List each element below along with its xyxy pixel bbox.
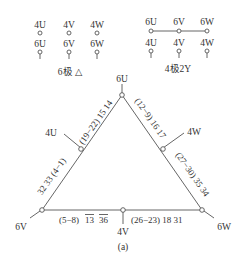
legend-delta-4v: 4V — [63, 20, 75, 30]
vertex-label-6v: 6V — [15, 222, 27, 232]
delta-legend: 4U 4V 4W 6U 6V 6W 6极 △ — [34, 20, 104, 77]
legend-wye-4w: 4W — [200, 38, 214, 48]
node-6w — [200, 208, 205, 213]
node-4u — [79, 147, 84, 152]
terminal-icon — [205, 49, 209, 53]
legend-wye-6u: 6U — [145, 17, 157, 27]
node-6v — [40, 208, 45, 213]
terminal-icon — [38, 50, 42, 54]
figure-caption: (a) — [118, 242, 129, 253]
legend-wye-4v: 4V — [173, 38, 185, 48]
legend-delta-4w: 4W — [90, 20, 104, 30]
vertex-lead-right — [204, 211, 214, 218]
edge-label-left-upper: (19−22) 15 14 — [77, 98, 115, 146]
terminal-icon — [149, 49, 153, 53]
triangle-left-side — [42, 95, 122, 210]
wye-legend: 6U 6V 6W 4U 4V 4W 4极2Y — [145, 17, 214, 74]
midpoint-label-4u: 4U — [45, 128, 57, 138]
midpoint-label-4v: 4V — [117, 227, 129, 237]
terminal-icon — [177, 49, 181, 53]
node-4v — [121, 208, 126, 213]
legend-delta-6w: 6W — [90, 39, 104, 49]
midpoint-label-4w: 4W — [187, 127, 201, 137]
vertex-label-6w: 6W — [217, 222, 231, 232]
legend-wye-6w: 6W — [200, 17, 214, 27]
terminal-icon — [67, 50, 71, 54]
vertex-label-6u: 6U — [116, 74, 128, 84]
winding-connection-diagram: 4U 4V 4W 6U 6V 6W 6极 △ 6U 6V 6W 4U 4V 4W — [0, 0, 244, 269]
legend-wye-6v: 6V — [173, 17, 185, 27]
edge-label-bottom-left-prefix: (5−8) — [59, 215, 79, 225]
edge-label-bottom-left-a: 13 — [85, 215, 95, 225]
terminal-icon — [38, 31, 42, 35]
terminal-icon — [149, 29, 153, 33]
edge-label-bottom-right: (26−23) 18 31 — [131, 215, 183, 225]
terminal-icon — [95, 50, 99, 54]
legend-delta-4u: 4U — [34, 20, 46, 30]
legend-wye-caption: 4极2Y — [165, 63, 192, 74]
terminal-icon — [205, 29, 209, 33]
edge-label-left-lower: 32 33 (4−1) — [35, 156, 68, 197]
vertex-lead-left — [30, 211, 40, 218]
delta-triangle: 6U 6V 6W 4U 4W 4V (19−22) 15 14 32 33 (4… — [15, 74, 231, 237]
terminal-icon — [95, 31, 99, 35]
legend-delta-6v: 6V — [63, 39, 75, 49]
edge-label-right-lower: (27−30) 35 34 — [174, 150, 212, 198]
legend-wye-4u: 4U — [145, 38, 157, 48]
triangle-right-side — [122, 95, 202, 210]
terminal-icon — [177, 29, 181, 33]
legend-delta-caption: 6极 △ — [58, 66, 83, 77]
node-4w — [161, 147, 166, 152]
legend-delta-6u: 6U — [34, 39, 46, 49]
node-6u — [120, 93, 125, 98]
edge-label-bottom-left-b: 36 — [99, 215, 109, 225]
terminal-icon — [67, 31, 71, 35]
